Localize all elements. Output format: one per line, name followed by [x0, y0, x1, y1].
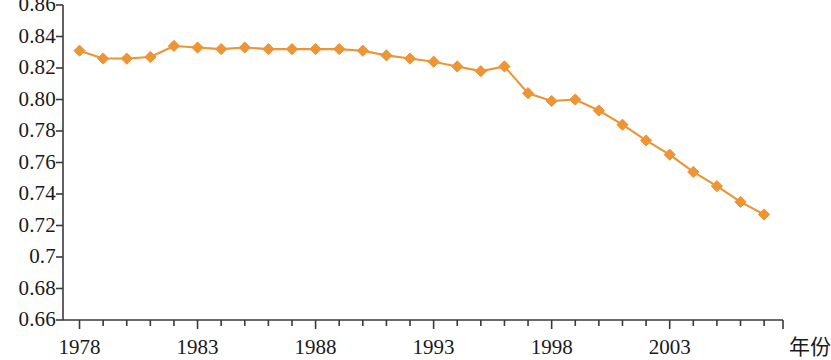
x-tick-label: 1988: [295, 337, 337, 358]
x-tick-label: 1998: [531, 337, 573, 358]
x-axis-title: 年份: [789, 337, 831, 358]
x-tick-label: 2003: [649, 337, 691, 358]
x-tick-label: 1978: [59, 337, 101, 358]
x-tick-label: 1993: [413, 337, 455, 358]
x-tick-label: 1983: [177, 337, 219, 358]
